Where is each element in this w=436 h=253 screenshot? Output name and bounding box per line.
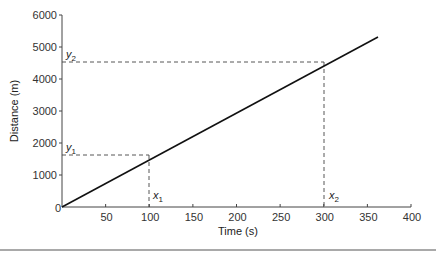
x-tick-label: 200: [228, 211, 246, 223]
label-y1: y1: [65, 141, 77, 156]
x-tick-label: 350: [359, 211, 377, 223]
x-tick-label: 300: [316, 211, 334, 223]
data-line: [62, 37, 378, 207]
label-y2: y2: [65, 48, 77, 63]
y-tick-label: 6000: [33, 9, 57, 21]
y-tick-label: 2000: [33, 137, 57, 149]
x-tick-label: 400: [403, 211, 421, 223]
y-axis-title: Distance (m): [8, 80, 20, 142]
x-tick-label: 250: [272, 211, 290, 223]
distance-time-chart: 100020003000400050006000 050100150200250…: [0, 0, 436, 253]
y-ticks: 100020003000400050006000: [33, 9, 62, 181]
y-tick-label: 5000: [33, 41, 57, 53]
x-tick-label: 50: [101, 211, 113, 223]
y-tick-label: 4000: [33, 73, 57, 85]
x-axis-title: Time (s): [218, 225, 258, 237]
x-tick-label: 150: [185, 211, 203, 223]
label-x2: x2: [328, 189, 340, 204]
label-x1: x1: [152, 189, 164, 204]
x-tick-label: 100: [141, 211, 159, 223]
y-tick-label: 1000: [33, 169, 57, 181]
y-tick-label: 3000: [33, 105, 57, 117]
x-ticks: 050100150200250300350400: [55, 202, 421, 223]
x-tick-label: 0: [55, 202, 61, 214]
